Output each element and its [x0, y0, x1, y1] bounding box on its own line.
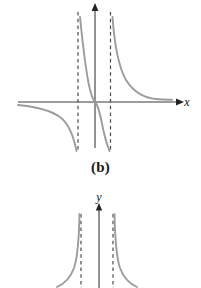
- curve-lower-right-branch: [115, 214, 138, 287]
- y-axis-label: y: [95, 190, 102, 204]
- x-axis-arrowhead: [176, 99, 184, 106]
- figure-root: x (b) y: [0, 0, 201, 288]
- panel-b-graph: x: [0, 0, 201, 158]
- y-axis-lower: [96, 203, 102, 288]
- y-axis-arrowhead: [92, 3, 99, 11]
- curve-left-branch: [18, 105, 77, 151]
- panel-b-caption: (b): [0, 158, 201, 176]
- y-axis: [92, 3, 99, 148]
- curve-right-branch: [113, 17, 173, 100]
- x-axis-label: x: [183, 95, 190, 109]
- y-axis-arrowhead-lower: [96, 203, 102, 211]
- curve-lower-left-branch: [57, 214, 80, 287]
- panel-c-graph-partial: y: [0, 190, 201, 288]
